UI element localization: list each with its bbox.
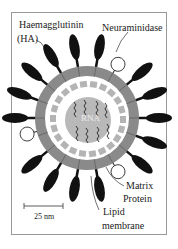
label-lipid: Lipid [103,206,125,217]
label-matrix: Matrix [126,180,153,191]
matrix-block [89,150,97,157]
label-scale: 25 nm [34,211,54,222]
label-protein: Protein [123,193,152,204]
label-haemagglutinin: Haemagglutinin [19,19,83,30]
matrix-block [80,81,88,88]
label-ha-abbr: (HA) [17,33,38,44]
label-rna: RNA [81,113,100,124]
matrix-block [90,81,98,88]
label-membrane: membrane [102,220,144,231]
label-neuraminidase: Neuraminidase [102,22,163,33]
matrix-block [50,115,56,122]
matrix-block [79,150,87,157]
matrix-block [120,116,126,123]
